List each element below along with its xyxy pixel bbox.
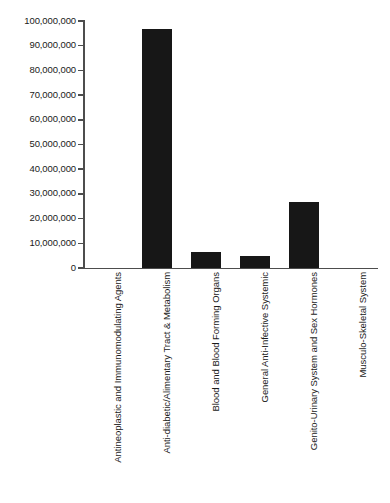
y-axis-tick-label: 80,000,000 xyxy=(0,65,76,75)
x-axis-category-label: Genito-Urinary System and Sex Hormones xyxy=(308,272,319,450)
y-axis-tick-mark xyxy=(78,193,83,195)
y-axis-tick-label: 30,000,000 xyxy=(0,188,76,198)
y-axis-tick-label: 50,000,000 xyxy=(0,139,76,149)
y-axis-tick-mark xyxy=(78,45,83,47)
bar xyxy=(240,256,270,268)
bar-chart: 010,000,00020,000,00030,000,00040,000,00… xyxy=(0,0,390,503)
bar xyxy=(191,252,221,268)
y-axis-tick-mark xyxy=(78,20,83,22)
y-axis-tick-mark xyxy=(78,70,83,72)
y-axis-tick-mark xyxy=(78,218,83,220)
x-axis-category-label: Blood and Blood Forming Organs xyxy=(210,272,221,412)
y-axis-tick-mark xyxy=(78,144,83,146)
y-axis-tick-label: 40,000,000 xyxy=(0,164,76,174)
y-axis-tick-mark xyxy=(78,119,83,121)
bar xyxy=(142,29,172,268)
y-axis-tick-mark xyxy=(78,267,83,269)
y-axis-tick-label: 100,000,000 xyxy=(0,16,76,26)
y-axis-tick-label: 60,000,000 xyxy=(0,114,76,124)
x-axis-category-label: General Anti-Infective Systemic xyxy=(259,272,270,402)
y-axis-tick-label: 90,000,000 xyxy=(0,40,76,50)
y-axis-tick-mark xyxy=(78,243,83,245)
y-axis-tick-mark xyxy=(78,94,83,96)
x-axis-category-labels: Antineoplastic and Immunomodulating Agen… xyxy=(83,272,378,503)
y-axis-tick-labels: 010,000,00020,000,00030,000,00040,000,00… xyxy=(0,0,76,290)
bar xyxy=(289,202,319,268)
x-axis-category-label: Musculo-Skeletal System xyxy=(357,272,368,378)
y-axis-tick-label: 0 xyxy=(0,263,76,273)
x-axis-category-label: Anti-diabetic/Alimentary Tract & Metabol… xyxy=(161,272,172,454)
y-axis-tick-label: 10,000,000 xyxy=(0,238,76,248)
x-axis-category-label: Antineoplastic and Immunomodulating Agen… xyxy=(112,272,123,463)
y-axis-tick-label: 70,000,000 xyxy=(0,90,76,100)
y-axis-tick-label: 20,000,000 xyxy=(0,213,76,223)
y-axis-tick-mark xyxy=(78,168,83,170)
plot-area xyxy=(83,21,378,268)
